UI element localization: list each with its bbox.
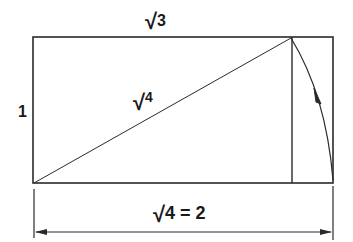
root-rectangle-diagram: √3 1 √4 √4 = 2 xyxy=(0,0,353,242)
left-label: 1 xyxy=(18,103,27,120)
bottom-dimension-label: √4 = 2 xyxy=(153,202,206,227)
top-label: √3 xyxy=(145,9,166,34)
swing-arc xyxy=(291,38,333,180)
diagonal-label: √4 xyxy=(133,89,153,115)
diagonal-line xyxy=(34,38,291,183)
arc-arrowhead-icon xyxy=(314,88,321,104)
outer-rectangle xyxy=(33,37,333,183)
